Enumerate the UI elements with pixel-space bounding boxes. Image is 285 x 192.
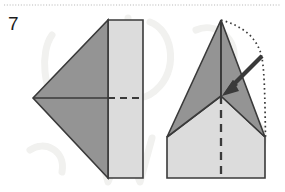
- origami-step-figure: 7: [0, 0, 285, 192]
- figure-right-folded-paper-after: [0, 0, 285, 192]
